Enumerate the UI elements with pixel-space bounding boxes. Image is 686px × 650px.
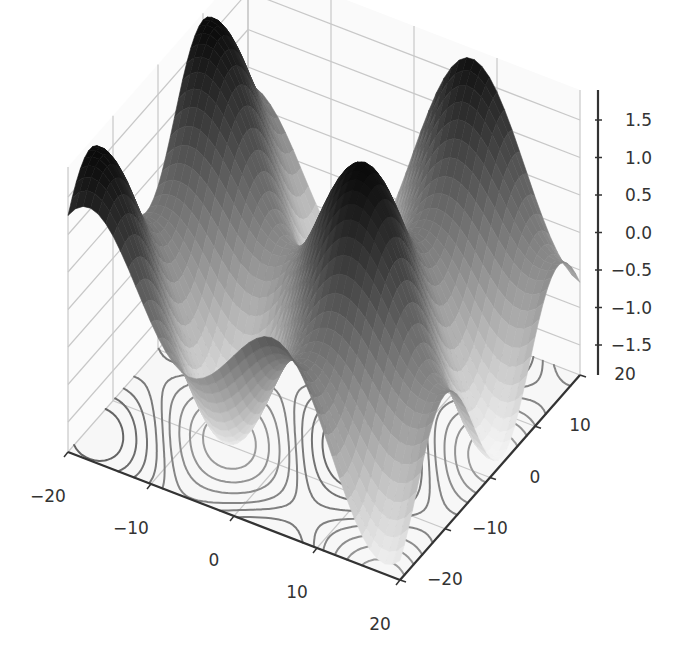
z-tick-label: −1.0 <box>611 298 652 318</box>
x-tick-label: 0 <box>209 550 220 570</box>
z-tick-label: 1.5 <box>625 110 652 130</box>
x-tick-label: −20 <box>30 486 66 506</box>
x-tick-label: 20 <box>369 614 391 634</box>
z-axis-ticks: −1.5−1.0−0.50.00.51.01.5 <box>595 110 652 355</box>
y-tick-label: 10 <box>569 415 591 435</box>
x-tick-label: 10 <box>286 582 308 602</box>
y-tick-label: 20 <box>614 364 636 384</box>
z-tick-label: −0.5 <box>611 260 652 280</box>
z-tick-label: 0.0 <box>625 223 652 243</box>
y-tick-label: 0 <box>530 467 541 487</box>
surface-plot: −20−1001020 −20−1001020 −1.5−1.0−0.50.00… <box>0 0 686 650</box>
x-tick-label: −10 <box>113 518 149 538</box>
y-tick-label: −20 <box>427 569 463 589</box>
y-tick-label: −10 <box>472 518 508 538</box>
z-tick-label: −1.5 <box>611 335 652 355</box>
z-tick-label: 0.5 <box>625 185 652 205</box>
z-tick-label: 1.0 <box>625 148 652 168</box>
